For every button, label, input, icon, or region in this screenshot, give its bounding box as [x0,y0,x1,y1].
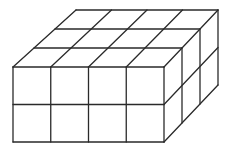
top-face [13,10,218,67]
top-depth-edge [51,10,112,67]
top-depth-edge [164,10,218,67]
cube-prism-diagram [0,0,231,151]
right-face [164,10,218,142]
top-depth-edge [13,10,76,67]
top-depth-edge [126,10,182,67]
front-face [13,67,164,142]
right-depth-edge [164,85,218,142]
top-depth-edge [89,10,148,67]
right-depth-edge [164,48,218,105]
